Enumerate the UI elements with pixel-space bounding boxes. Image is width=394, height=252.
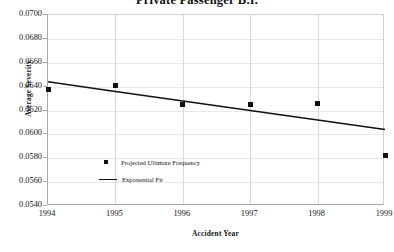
y-axis-tick-label: 0.0620 xyxy=(0,105,42,114)
data-point-marker xyxy=(315,101,320,106)
x-axis-tick-label: 1998 xyxy=(294,209,340,218)
grid-line-horizontal xyxy=(48,39,383,40)
x-axis-tick-label: 1996 xyxy=(159,209,205,218)
chart-legend: Projected Ultimate Frequency Exponential… xyxy=(99,152,249,186)
legend-line-marker-icon xyxy=(99,179,117,180)
grid-line-vertical xyxy=(250,15,251,204)
y-axis-tick-label: 0.0660 xyxy=(0,57,42,66)
grid-line-vertical xyxy=(318,15,319,204)
legend-square-marker-icon xyxy=(104,160,108,164)
y-axis-tick-label: 0.0640 xyxy=(0,81,42,90)
legend-label: Exponential Fit xyxy=(122,171,163,188)
chart-container: Private Passenger B.I. Average Severity … xyxy=(0,0,394,252)
x-axis-tick-label: 1994 xyxy=(24,209,70,218)
grid-line-horizontal xyxy=(48,111,383,112)
grid-line-horizontal xyxy=(48,63,383,64)
x-axis-tick-label: 1995 xyxy=(91,209,137,218)
y-axis-tick-label: 0.0700 xyxy=(0,9,42,18)
chart-title: Private Passenger B.I. xyxy=(0,0,394,8)
legend-item-exponential-fit: Exponential Fit xyxy=(99,169,249,186)
y-axis-tick-label: 0.0600 xyxy=(0,128,42,137)
y-axis-tick-label: 0.0540 xyxy=(0,200,42,209)
data-point-marker xyxy=(248,102,253,107)
grid-line-horizontal xyxy=(48,87,383,88)
data-point-marker xyxy=(383,153,388,158)
x-axis-label: Accident Year xyxy=(47,229,384,238)
y-axis-tick-mark xyxy=(43,205,47,206)
x-axis-tick-label: 1999 xyxy=(361,209,394,218)
y-axis-tick-label: 0.0580 xyxy=(0,152,42,161)
x-axis-tick-label: 1997 xyxy=(226,209,272,218)
y-axis-tick-label: 0.0560 xyxy=(0,176,42,185)
grid-line-horizontal xyxy=(48,134,383,135)
data-point-marker xyxy=(180,102,185,107)
data-point-marker xyxy=(46,87,51,92)
data-point-marker xyxy=(113,83,118,88)
legend-item-projected-ultimate-frequency: Projected Ultimate Frequency xyxy=(99,152,249,169)
y-axis-tick-label: 0.0680 xyxy=(0,33,42,42)
